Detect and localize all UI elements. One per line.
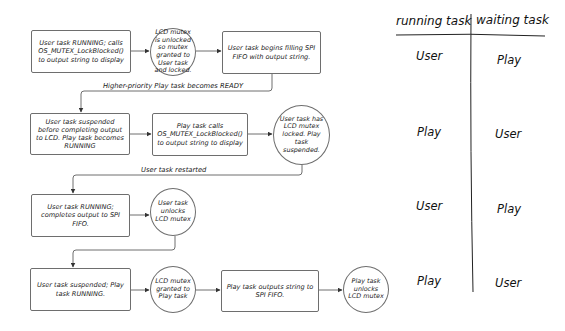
step-user-running-lock: User task RUNNING; calls OS_MUTEX_LockBl… <box>31 30 131 73</box>
decision-user-unlocks: User task unlocks LCD mutex <box>150 188 196 236</box>
step-user-completes: User task RUNNING; completes output to S… <box>31 194 130 237</box>
header-running-task: running task <box>396 14 471 28</box>
waiting-cell-2: User <box>495 127 521 141</box>
decision-text: User task unlocks LCD mutex <box>154 200 192 223</box>
step-text: User task begins filling SPI FIFO with o… <box>226 44 317 60</box>
transition-play-ready: Higher-priority Play task becomes READY <box>103 82 243 90</box>
step-user-fill-fifo: User task begins filling SPI FIFO with o… <box>222 31 321 74</box>
step-play-outputs: Play task outputs string to SPI FIFO. <box>221 270 319 312</box>
waiting-cell-1: Play <box>497 53 521 67</box>
step-text: User task RUNNING; calls OS_MUTEX_LockBl… <box>35 39 127 64</box>
running-cell-1: User <box>416 49 442 63</box>
transition-user-restarted: User task restarted <box>141 166 206 174</box>
decision-play-unlocks: Play task unlocks LCD mutex <box>343 266 389 313</box>
step-text: User task RUNNING; completes output to S… <box>35 203 126 228</box>
running-cell-3: User <box>416 199 442 213</box>
running-cell-4: Play <box>417 274 441 288</box>
step-text: User task suspended before completing ou… <box>34 118 126 151</box>
decision-mutex-granted-play: LCD mutex granted to Play task <box>150 266 196 313</box>
running-cell-2: Play <box>417 125 441 139</box>
waiting-cell-4: User <box>495 276 521 290</box>
step-text: Play task calls OS_MUTEX_LockBlocked() t… <box>156 122 244 147</box>
step-text: Play task outputs string to SPI FIFO. <box>225 283 315 299</box>
step-text: User task suspended; Play task RUNNING. <box>34 281 127 297</box>
decision-text: LCD mutex granted to Play task <box>154 278 192 301</box>
decision-text: LCD mutex is unlocked so mutex granted t… <box>154 29 192 75</box>
step-play-running: User task suspended; Play task RUNNING. <box>30 268 131 311</box>
decision-text: User task has LCD mutex locked. Play tas… <box>277 116 326 154</box>
decision-mutex-granted-user: LCD mutex is unlocked so mutex granted t… <box>150 28 196 76</box>
decision-play-suspended: User task has LCD mutex locked. Play tas… <box>273 105 330 165</box>
step-user-suspended: User task suspended before completing ou… <box>30 113 130 155</box>
waiting-cell-3: Play <box>497 202 521 216</box>
step-play-lock: Play task calls OS_MUTEX_LockBlocked() t… <box>152 113 248 156</box>
header-waiting-task: waiting task <box>476 13 549 27</box>
decision-text: Play task unlocks LCD mutex <box>347 278 385 301</box>
